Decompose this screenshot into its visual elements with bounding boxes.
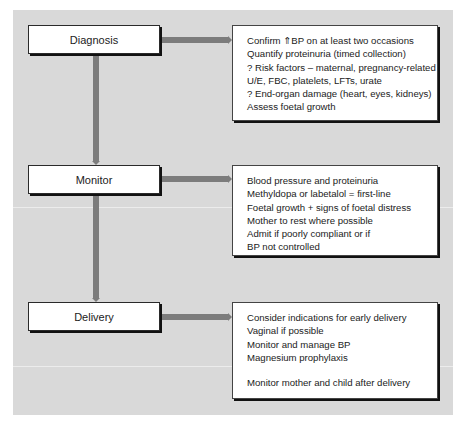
detail-item: Methyldopa or labetalol = first-line xyxy=(247,187,431,200)
detail-item: ? Risk factors – maternal, pregnancy-rel… xyxy=(247,61,431,74)
detail-item: Vaginal if possible xyxy=(247,324,431,337)
details-box-delivery: Consider indications for early delivery … xyxy=(232,302,438,399)
detail-item: BP not controlled xyxy=(247,240,431,253)
detail-item: Monitor mother and child after delivery xyxy=(247,376,431,389)
details-box-monitor: Blood pressure and proteinuria Methyldop… xyxy=(232,165,438,256)
arrow-monitor-to-details xyxy=(162,176,228,182)
detail-item: Admit if poorly compliant or if xyxy=(247,227,431,240)
detail-item: Assess foetal growth xyxy=(247,100,431,113)
spacer xyxy=(247,364,431,376)
details-box-diagnosis: Confirm ⇑BP on at least two occasions Qu… xyxy=(232,25,438,121)
detail-item: ? End-organ damage (heart, eyes, kidneys… xyxy=(247,87,431,100)
stage-label: Monitor xyxy=(76,174,113,186)
arrow-diagnosis-to-monitor xyxy=(93,55,99,161)
detail-item: Quantify proteinuria (timed collection) xyxy=(247,47,431,60)
stage-label: Delivery xyxy=(74,311,114,323)
arrow-monitor-to-delivery xyxy=(93,194,99,298)
detail-item: Foetal growth + signs of foetal distress xyxy=(247,201,431,214)
detail-item: Monitor and manage BP xyxy=(247,338,431,351)
detail-item: Confirm ⇑BP on at least two occasions xyxy=(247,34,431,47)
detail-item: Magnesium prophylaxis xyxy=(247,351,431,364)
stage-label: Diagnosis xyxy=(70,34,118,46)
detail-item: Mother to rest where possible xyxy=(247,214,431,227)
arrow-delivery-to-details xyxy=(162,314,228,320)
detail-item: U/E, FBC, platelets, LFTs, urate xyxy=(247,74,431,87)
detail-item: Blood pressure and proteinuria xyxy=(247,174,431,187)
stage-box-delivery: Delivery xyxy=(28,302,160,331)
stage-box-monitor: Monitor xyxy=(28,165,160,194)
arrow-diagnosis-to-details xyxy=(162,37,228,43)
detail-item: Consider indications for early delivery xyxy=(247,311,431,324)
stage-box-diagnosis: Diagnosis xyxy=(28,25,160,54)
